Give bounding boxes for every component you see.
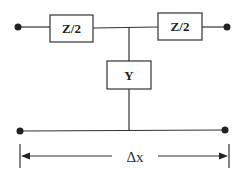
series-impedance-left-label: Z/2 — [62, 21, 81, 36]
series-impedance-right-label: Z/2 — [171, 19, 190, 34]
terminal-bottom-left — [17, 128, 24, 135]
top-middle-wire — [93, 27, 158, 28]
arrow-right-icon — [219, 153, 228, 160]
dimension-label: Δx — [126, 149, 144, 165]
terminal-top-right — [224, 24, 231, 31]
arrow-left-icon — [21, 153, 30, 160]
t-network-diagram: Z/2 Z/2 Y Δx — [0, 0, 241, 175]
shunt-admittance-label: Y — [124, 68, 134, 83]
terminal-bottom-right — [222, 127, 229, 134]
bottom-wire — [20, 130, 225, 131]
terminal-top-left — [15, 24, 22, 31]
